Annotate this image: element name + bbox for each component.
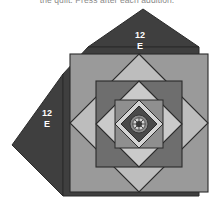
rosette-spokes xyxy=(133,118,145,130)
center-rosette xyxy=(130,115,148,133)
quilt-block-svg: 12 E 12 E xyxy=(0,0,214,214)
quilt-block-figure: 12 E 12 E xyxy=(0,0,214,214)
left-patch-label-letter: E xyxy=(44,119,50,129)
left-patch-label-number: 12 xyxy=(42,108,52,118)
left-corner-triangle xyxy=(12,74,63,196)
top-patch-label-number: 12 xyxy=(135,30,145,40)
top-patch-label-letter: E xyxy=(137,41,143,51)
top-corner-triangle xyxy=(88,9,199,47)
